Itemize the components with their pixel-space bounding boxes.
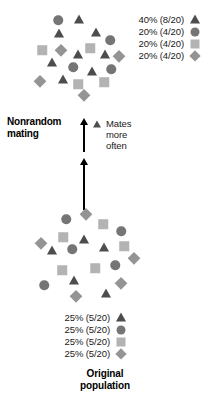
- triangle-marker: [73, 50, 83, 59]
- triangle-marker: [100, 50, 110, 59]
- legend-row: 20% (4/20): [118, 50, 202, 62]
- legend-label: 20% (4/20): [139, 50, 184, 62]
- square-marker: [90, 263, 100, 273]
- mates-more-often-annotation: Mates more often: [92, 118, 131, 151]
- diamond-marker: [34, 75, 46, 87]
- mates-more-often-text: Mates more often: [106, 118, 131, 151]
- legend-row: 25% (5/20): [46, 336, 128, 348]
- legend-row: 25% (5/20): [46, 312, 128, 324]
- triangle-marker: [79, 235, 89, 244]
- triangle-marker: [74, 15, 84, 24]
- square-marker: [98, 219, 108, 229]
- square-marker: [119, 241, 129, 251]
- legend-label: 25% (5/20): [65, 324, 110, 336]
- square-marker: [37, 45, 47, 55]
- triangle-marker: [69, 276, 79, 285]
- triangle-marker: [47, 58, 57, 67]
- triangle-marker: [99, 243, 109, 252]
- square-marker: [99, 77, 109, 87]
- circle-marker: [67, 244, 77, 254]
- legend-label: 20% (4/20): [139, 38, 184, 50]
- triangle-marker: [93, 121, 101, 128]
- triangle-marker: [54, 29, 64, 38]
- circle-marker: [190, 27, 199, 36]
- diamond-marker: [115, 277, 127, 289]
- circle-marker: [116, 325, 125, 334]
- figure-caption: Original population: [0, 368, 210, 392]
- triangle-marker: [101, 289, 111, 298]
- triangle-marker: [116, 313, 126, 322]
- mates-more-often-line3: often: [106, 140, 131, 151]
- legend-label: 25% (5/20): [65, 336, 110, 348]
- arrow-head-icon: [80, 158, 88, 165]
- circle-marker: [39, 280, 49, 290]
- figure-caption-line1: Original: [0, 368, 210, 380]
- circle-marker: [61, 214, 71, 224]
- legend-row: 40% (8/20): [118, 14, 202, 26]
- diamond-marker: [128, 252, 140, 264]
- resulting-population-legend: 40% (8/20)20% (4/20)20% (4/20)20% (4/20): [118, 14, 202, 62]
- arrow-shaft: [83, 123, 85, 152]
- diamond-icon: [188, 50, 202, 62]
- diamond-marker: [35, 237, 47, 249]
- square-marker: [57, 265, 67, 275]
- circle-icon: [188, 26, 202, 38]
- arrow-head-icon: [80, 118, 88, 125]
- circle-icon: [114, 324, 128, 336]
- square-icon: [188, 38, 202, 50]
- legend-row: 25% (5/20): [46, 324, 128, 336]
- square-marker: [58, 232, 68, 242]
- arrow-shaft: [83, 163, 85, 210]
- legend-label: 40% (8/20): [139, 14, 184, 26]
- triangle-marker: [58, 75, 68, 84]
- circle-marker: [68, 62, 78, 72]
- nonrandom-mating-figure: 40% (8/20)20% (4/20)20% (4/20)20% (4/20)…: [0, 0, 210, 406]
- mates-more-often-line1: Mates: [106, 118, 131, 129]
- triangle-icon: [114, 312, 128, 324]
- nonrandom-mating-label-line1: Nonrandom: [7, 116, 81, 128]
- triangle-marker: [91, 28, 101, 37]
- legend-row: 20% (4/20): [118, 26, 202, 38]
- diamond-marker: [55, 44, 67, 56]
- diamond-icon: [114, 348, 128, 360]
- diamond-marker: [70, 290, 82, 302]
- legend-row: 25% (5/20): [46, 348, 128, 360]
- square-marker: [85, 43, 95, 53]
- figure-caption-line2: population: [0, 380, 210, 392]
- circle-marker: [106, 64, 116, 74]
- diamond-marker: [78, 89, 90, 101]
- square-marker: [116, 337, 125, 346]
- legend-label: 25% (5/20): [65, 348, 110, 360]
- nonrandom-mating-label-line2: mating: [7, 128, 81, 140]
- diamond-marker: [115, 348, 126, 359]
- original-population-legend: 25% (5/20)25% (5/20)25% (5/20)25% (5/20): [46, 312, 128, 360]
- triangle-icon: [92, 119, 103, 130]
- square-marker: [73, 79, 83, 89]
- legend-label: 20% (4/20): [139, 26, 184, 38]
- square-marker: [190, 39, 199, 48]
- legend-row: 20% (4/20): [118, 38, 202, 50]
- circle-marker: [110, 260, 120, 270]
- nonrandom-mating-label: Nonrandom mating: [7, 116, 81, 139]
- circle-marker: [53, 15, 63, 25]
- triangle-marker: [87, 67, 97, 76]
- circle-marker: [105, 35, 115, 45]
- triangle-marker: [47, 246, 57, 255]
- square-icon: [114, 336, 128, 348]
- legend-label: 25% (5/20): [65, 312, 110, 324]
- diamond-marker: [80, 208, 92, 220]
- circle-marker: [116, 226, 126, 236]
- mates-more-often-line2: more: [106, 129, 131, 140]
- triangle-marker: [190, 15, 200, 24]
- diamond-marker: [189, 50, 200, 61]
- triangle-icon: [188, 14, 202, 26]
